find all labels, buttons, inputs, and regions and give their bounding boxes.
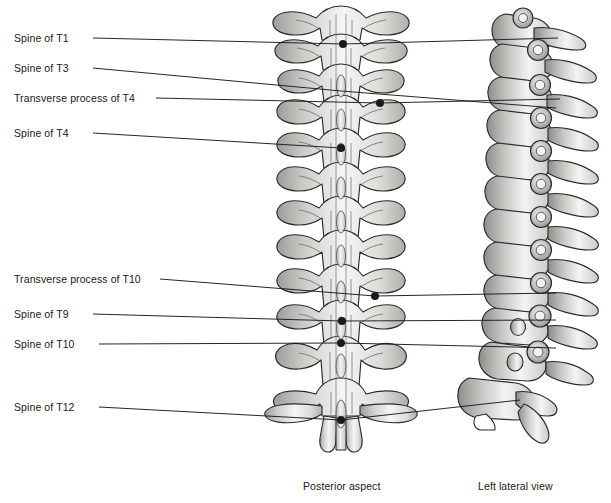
caption-posterior: Posterior aspect: [303, 480, 380, 492]
anatomical-figure: Spine of T1Spine of T3Transverse process…: [0, 0, 611, 503]
label-spine-t1: Spine of T1: [14, 32, 69, 44]
posterior-aspect-spine: [265, 6, 417, 452]
lateral-vertebrae-t2-t9: [484, 40, 598, 317]
left-lateral-view-spine: [458, 8, 598, 443]
label-spine-t10: Spine of T10: [14, 338, 75, 350]
spine-illustration: [0, 0, 611, 503]
label-spine-t3: Spine of T3: [14, 62, 69, 74]
label-tp-t4: Transverse process of T4: [14, 92, 135, 104]
landmark-dot-spine-t9: [338, 317, 346, 325]
label-spine-t9: Spine of T9: [14, 308, 69, 320]
caption-lateral: Left lateral view: [478, 480, 553, 492]
label-spine-t12: Spine of T12: [14, 401, 75, 413]
lateral-vertebra-t12: [458, 378, 557, 443]
landmark-dot-spine-t1: [339, 40, 347, 48]
landmark-dot-tp-t10: [371, 292, 379, 300]
landmark-dot-tp-t4: [376, 99, 384, 107]
label-spine-t4: Spine of T4: [14, 127, 69, 139]
landmark-dot-spine-t12: [337, 416, 345, 424]
label-tp-t10: Transverse process of T10: [14, 273, 141, 285]
landmark-dot-spine-t10: [337, 339, 345, 347]
landmark-dot-spine-t4: [337, 144, 345, 152]
